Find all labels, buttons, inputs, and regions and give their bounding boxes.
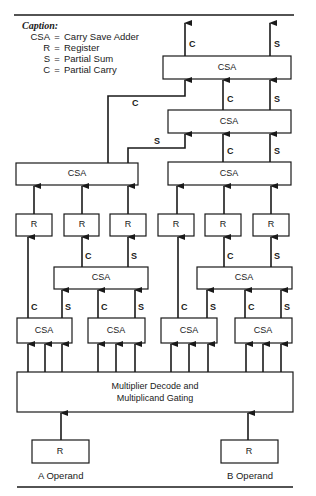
csa-top-label: CSA [218, 62, 237, 72]
register-a-label: R [57, 446, 64, 456]
legend-key: CSA [22, 31, 50, 42]
legend-row-s: S=Partial Sum [22, 53, 139, 64]
legend-key: C [22, 64, 50, 75]
register-6-label: R [268, 219, 275, 229]
register-4-label: R [173, 219, 180, 229]
out-c-label: C [189, 39, 196, 49]
br1-c-label: C [181, 302, 188, 312]
legend-eq: = [50, 42, 64, 53]
legend-meaning: Partial Sum [64, 53, 113, 64]
caption-legend: Caption: CSA=Carry Save Adder R=Register… [22, 20, 139, 75]
out-s-label: S [274, 39, 280, 49]
csa-bottom-3-label: CSA [180, 325, 199, 335]
left-long-c-label: C [132, 98, 139, 108]
legend-key: R [22, 42, 50, 53]
r6-s-label: S [274, 251, 280, 261]
legend-row-c: C=Partial Carry [22, 64, 139, 75]
bl2-s-label: S [138, 302, 144, 312]
legend-row-r: R=Register [22, 42, 139, 53]
bl1-s-label: S [65, 302, 71, 312]
csa-left-upper-label: CSA [68, 168, 87, 178]
br2-c-label: C [248, 302, 255, 312]
csa-bottom-1-label: CSA [35, 325, 54, 335]
legend-eq: = [50, 53, 64, 64]
caption-title: Caption: [22, 20, 139, 31]
br2-s-label: S [284, 302, 290, 312]
second-c-label: C [227, 94, 234, 104]
register-5-label: R [220, 219, 227, 229]
second-s-label: S [274, 94, 280, 104]
legend-key: S [22, 53, 50, 64]
decode-gating-box [17, 372, 293, 412]
csa-mid-left-label: CSA [92, 272, 111, 282]
legend-eq: = [50, 31, 64, 42]
legend-row-csa: CSA=Carry Save Adder [22, 31, 139, 42]
legend-meaning: Carry Save Adder [64, 31, 139, 42]
csa-second-label: CSA [220, 116, 239, 126]
register-1-label: R [31, 219, 38, 229]
csa-right-upper-label: CSA [220, 168, 239, 178]
r3-s-label: S [131, 251, 137, 261]
csa-mid-right-label: CSA [235, 272, 254, 282]
legend-meaning: Partial Carry [64, 64, 117, 75]
left-s-label: S [154, 136, 160, 146]
csa-bottom-2-label: CSA [107, 325, 126, 335]
r5-c-label: C [227, 251, 234, 261]
decode-label-line1: Multiplier Decode and [111, 381, 198, 391]
csa-bottom-4-label: CSA [254, 325, 273, 335]
operand-a-label: A Operand [38, 470, 83, 481]
legend-eq: = [50, 64, 64, 75]
ru-s-label: S [274, 146, 280, 156]
legend-meaning: Register [64, 42, 99, 53]
br1-s-label: S [210, 302, 216, 312]
ru-c-label: C [227, 146, 234, 156]
register-b-label: R [246, 446, 253, 456]
register-3-label: R [125, 219, 132, 229]
bl1-c-label: C [31, 302, 38, 312]
r2-c-label: C [85, 251, 92, 261]
operand-b-label: B Operand [227, 470, 273, 481]
decode-label-line2: Multiplicand Gating [117, 393, 194, 403]
bl2-c-label: C [101, 302, 108, 312]
register-2-label: R [79, 219, 86, 229]
